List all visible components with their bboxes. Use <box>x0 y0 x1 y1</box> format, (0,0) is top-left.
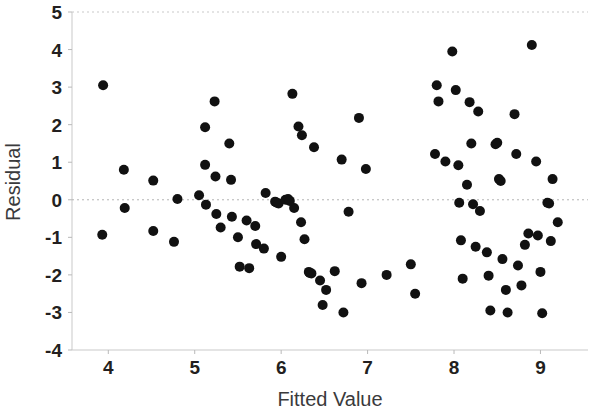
data-point <box>242 215 252 225</box>
data-point <box>501 285 511 295</box>
data-point <box>315 276 325 286</box>
x-tick-label: 8 <box>449 357 460 378</box>
data-point <box>503 307 513 317</box>
data-point <box>306 268 316 278</box>
data-point <box>148 226 158 236</box>
y-axis-ticks: 543210-1-2-3-4 <box>45 2 72 361</box>
data-point <box>485 306 495 316</box>
data-point <box>210 96 220 106</box>
data-point <box>531 156 541 166</box>
data-point <box>226 175 236 185</box>
data-point <box>520 240 530 250</box>
y-tick-label: 5 <box>51 2 62 23</box>
data-point <box>357 278 367 288</box>
data-point <box>200 160 210 170</box>
data-point <box>297 130 307 140</box>
x-tick-label: 5 <box>189 357 200 378</box>
data-point <box>235 262 245 272</box>
y-tick-label: -2 <box>45 265 62 286</box>
data-point <box>432 80 442 90</box>
data-point <box>484 271 494 281</box>
data-point <box>516 280 526 290</box>
data-point <box>513 261 523 271</box>
data-point <box>458 274 468 284</box>
data-point <box>259 244 269 254</box>
data-point <box>119 165 129 175</box>
data-point <box>293 122 303 132</box>
data-point <box>447 46 457 56</box>
x-tick-label: 7 <box>362 357 373 378</box>
data-point <box>169 237 179 247</box>
data-point <box>473 107 483 117</box>
data-point <box>361 164 371 174</box>
x-axis-title: Fitted Value <box>277 388 382 410</box>
data-point <box>194 190 204 200</box>
data-point <box>440 156 450 166</box>
data-point <box>244 263 254 273</box>
data-point <box>337 155 347 165</box>
data-point <box>492 138 502 148</box>
data-point <box>533 230 543 240</box>
data-point <box>276 252 286 262</box>
y-tick-label: -1 <box>45 227 62 248</box>
data-point <box>535 267 545 277</box>
data-point <box>330 266 340 276</box>
data-point <box>250 221 260 231</box>
y-tick-label: 4 <box>51 40 62 61</box>
y-tick-label: 3 <box>51 77 62 98</box>
y-tick-label: 1 <box>51 152 62 173</box>
data-point <box>233 232 243 242</box>
y-tick-label: 0 <box>51 190 62 211</box>
data-point <box>210 171 220 181</box>
data-point <box>172 194 182 204</box>
data-point <box>462 180 472 190</box>
data-point <box>354 113 364 123</box>
data-point <box>97 230 107 240</box>
data-point <box>523 229 533 239</box>
y-tick-label: -4 <box>45 340 62 361</box>
data-point <box>466 138 476 148</box>
data-point <box>454 198 464 208</box>
data-point <box>430 149 440 159</box>
data-point <box>433 96 443 106</box>
scatter-plot-canvas: 456789 543210-1-2-3-4 Fitted Value Resid… <box>0 0 592 415</box>
data-point <box>475 206 485 216</box>
data-point <box>482 247 492 257</box>
x-tick-label: 9 <box>535 357 546 378</box>
data-point <box>309 142 319 152</box>
x-axis-ticks: 456789 <box>103 350 546 378</box>
data-point <box>227 212 237 222</box>
x-tick-label: 6 <box>276 357 287 378</box>
data-point <box>511 149 521 159</box>
data-point <box>296 217 306 227</box>
data-point <box>453 160 463 170</box>
data-point <box>285 196 295 206</box>
data-point <box>527 40 537 50</box>
data-point <box>224 138 234 148</box>
data-point <box>300 234 310 244</box>
data-point <box>211 209 221 219</box>
data-point <box>382 270 392 280</box>
data-point <box>120 203 130 213</box>
data-point <box>497 254 507 264</box>
data-point <box>510 109 520 119</box>
data-point <box>261 188 271 198</box>
y-axis-title: Residual <box>2 143 24 221</box>
data-point <box>148 176 158 186</box>
data-point <box>496 176 506 186</box>
data-point <box>410 289 420 299</box>
data-point <box>548 174 558 184</box>
y-tick-label: 2 <box>51 115 62 136</box>
data-point <box>471 242 481 252</box>
residual-plot-figure: 456789 543210-1-2-3-4 Fitted Value Resid… <box>0 0 592 415</box>
data-point <box>465 97 475 107</box>
data-point <box>321 285 331 295</box>
data-point <box>344 207 354 217</box>
data-point <box>200 122 210 132</box>
data-point <box>318 300 328 310</box>
data-point <box>544 199 554 209</box>
data-point <box>456 235 466 245</box>
data-point <box>553 217 563 227</box>
data-point <box>451 85 461 95</box>
data-point <box>546 236 556 246</box>
